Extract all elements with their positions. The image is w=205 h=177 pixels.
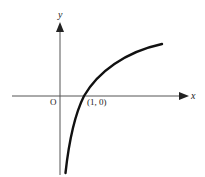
x-axis-label: x [190,90,196,101]
origin-label: O [50,97,57,107]
log-curve [66,44,163,173]
y-axis-arrow-icon [56,22,64,32]
point-label: (1, 0) [87,97,107,107]
y-axis-label: y [57,9,63,20]
log-graph: y x O (1, 0) [0,0,205,177]
x-axis-arrow-icon [179,92,189,100]
